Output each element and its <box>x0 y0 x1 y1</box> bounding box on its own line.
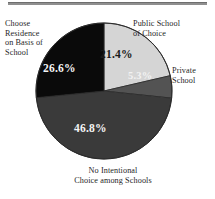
label-public-school-of-choice: Public School of Choice <box>133 19 207 38</box>
label-private-school: Private School <box>172 66 215 85</box>
percent-label-private-school: 5.3% <box>128 70 152 82</box>
label-choose-residence-on-basis-of-school: Choose Residence on Basis of School <box>5 19 67 57</box>
percent-label-choose-residence: 26.6% <box>43 62 76 74</box>
percent-label-public-school-of-choice: 21.4% <box>100 48 133 60</box>
label-no-intentional-choice-among-schools: No Intentional Choice among Schools <box>38 166 188 185</box>
percent-label-no-intentional-choice: 46.8% <box>74 122 107 134</box>
pie-chart-figure: Choose Residence on Basis of School Publ… <box>0 0 215 199</box>
